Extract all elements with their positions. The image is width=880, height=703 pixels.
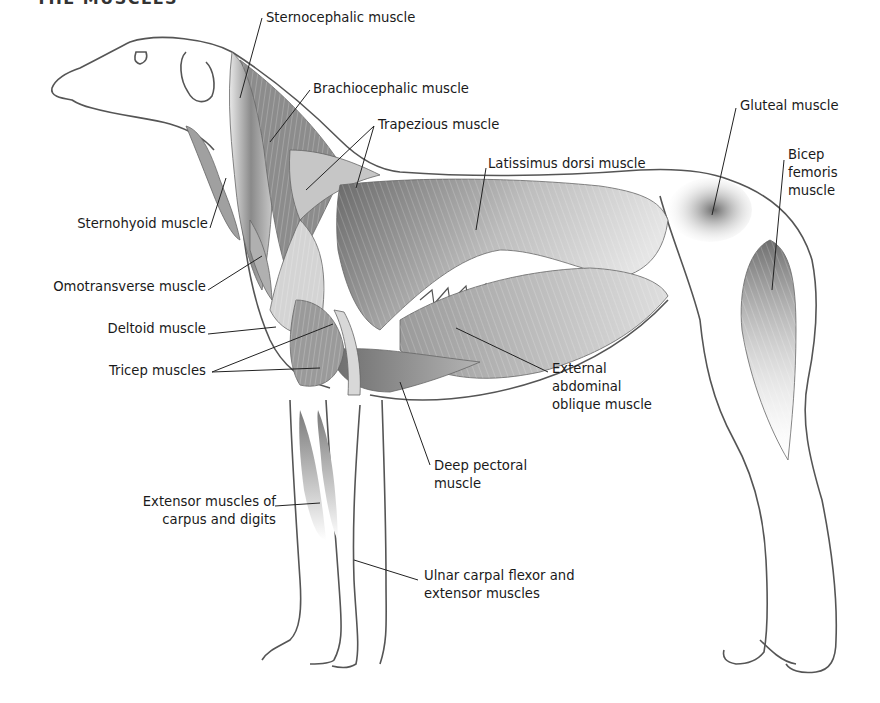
- label-ulnar-carpal-flexor-extensor-muscles: Ulnar carpal flexor and extensor muscles: [424, 567, 575, 603]
- label-deltoid-muscle: Deltoid muscle: [80, 320, 206, 337]
- label-extensor-muscles-carpus-digits: Extensor muscles of carpus and digits: [110, 493, 276, 529]
- muscle-gluteal: [668, 178, 752, 242]
- foreleg-muscles: [299, 410, 338, 540]
- label-bicep-femoris-muscle: Bicep femoris muscle: [788, 146, 838, 200]
- hind-leg-muscles: [668, 178, 796, 460]
- label-gluteal-muscle: Gluteal muscle: [740, 97, 839, 114]
- label-latissimus-dorsi-muscle: Latissimus dorsi muscle: [488, 155, 646, 172]
- dog-muscle-diagram: The muscles: [0, 0, 880, 703]
- label-trapezious-muscle: Trapezious muscle: [378, 116, 499, 133]
- label-external-abdominal-oblique-muscle: External abdominal oblique muscle: [552, 360, 652, 414]
- label-omotransverse-muscle: Omotransverse muscle: [34, 278, 206, 295]
- label-brachiocephalic-muscle: Brachiocephalic muscle: [313, 80, 469, 97]
- label-deep-pectoral-muscle: Deep pectoral muscle: [434, 457, 527, 493]
- label-sternohyoid-muscle: Sternohyoid muscle: [58, 215, 208, 232]
- label-tricep-muscles: Tricep muscles: [80, 362, 206, 379]
- label-sternocephalic-muscle: Sternocephalic muscle: [266, 9, 415, 26]
